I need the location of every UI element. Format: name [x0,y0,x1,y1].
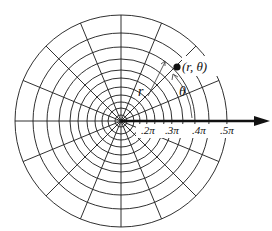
polar-axis-arrowhead-icon [254,116,270,126]
r-label: r [138,84,144,99]
theta-label: θ [179,84,186,99]
tick-label-0.3pi: .3π [165,124,179,136]
tick-label-0.5pi: .5π [220,124,234,136]
tick-label-0.4pi: .4π [192,124,206,136]
polar-grid-diagram: .2π .3π .4π .5π r θ (r, θ) [0,0,272,231]
point-marker [173,63,180,70]
point-label: (r, θ) [182,59,207,74]
tick-label-0.2pi: .2π [141,124,155,136]
